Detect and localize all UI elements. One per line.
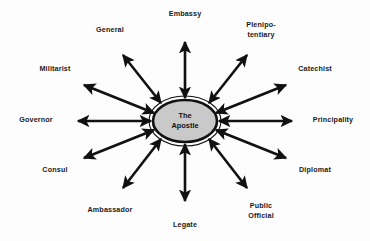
spoke-arrow-consul: [84, 130, 154, 158]
node-label-consul: Consul: [42, 165, 67, 175]
hub-ellipse: [153, 100, 217, 142]
spoke-arrow-ambassador: [123, 139, 161, 188]
node-label-catechist: Catechist: [298, 64, 332, 74]
spoke-arrow-plenipotentiary: [209, 55, 247, 103]
spoke-arrow-public-official: [209, 139, 247, 188]
diagram-canvas: The Apostle EmbassyPlenipo- tentiaryCate…: [0, 0, 370, 241]
spoke-arrow-diplomat: [216, 130, 286, 158]
node-label-militarist: Militarist: [39, 64, 70, 74]
node-label-diplomat: Diplomat: [299, 165, 331, 175]
hub-group: [149, 96, 221, 146]
node-label-public-official: Public Official: [248, 201, 274, 220]
node-label-embassy: Embassy: [169, 9, 202, 19]
node-label-principality: Principality: [313, 115, 354, 125]
node-label-legate: Legate: [173, 220, 197, 230]
node-label-plenipotentiary: Plenipo- tentiary: [246, 20, 276, 39]
node-label-governor: Governor: [19, 115, 53, 125]
spoke-arrow-catechist: [216, 85, 286, 113]
node-label-general: General: [96, 25, 124, 35]
spoke-arrow-general: [123, 55, 161, 103]
spoke-arrow-militarist: [84, 85, 154, 113]
node-label-ambassador: Ambassador: [87, 205, 132, 215]
